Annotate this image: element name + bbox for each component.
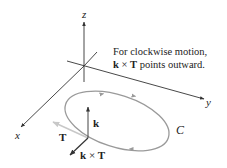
x-axis-label: x — [15, 129, 20, 141]
z-axis-label: z — [82, 8, 86, 20]
diagram-canvas — [0, 0, 227, 168]
k-vector-label: k — [93, 117, 99, 129]
curve-label: C — [176, 124, 184, 136]
caption-line-1: For clockwise motion, — [113, 45, 207, 58]
y-axis-label: y — [206, 96, 211, 108]
caption-line-2: k × T points outward. — [113, 58, 207, 71]
caption: For clockwise motion, k × T points outwa… — [113, 45, 207, 71]
t-vector-label: T — [59, 131, 66, 143]
x-axis — [21, 66, 84, 127]
k-cross-t-label: k × T — [80, 149, 105, 161]
x-axis-negative — [84, 52, 97, 66]
